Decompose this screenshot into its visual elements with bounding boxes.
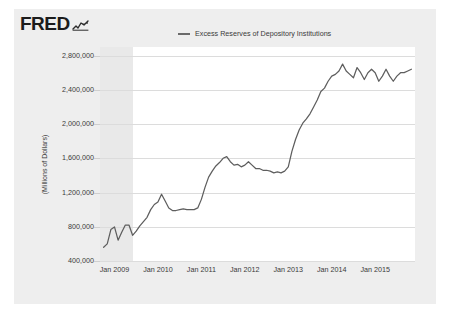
- x-tick-label: Jan 2009: [100, 265, 130, 274]
- screenshot-root: FRED Excess Reserves of Depository Insti…: [0, 0, 450, 318]
- y-tick-label: 1,200,000: [62, 189, 94, 197]
- legend-label-excess-reserves: Excess Reserves of Depository Institutio…: [195, 29, 331, 38]
- fred-wordmark: FRED: [20, 14, 70, 33]
- fred-chart-card: FRED Excess Reserves of Depository Insti…: [14, 9, 436, 304]
- line-chart-spark-icon: [72, 20, 89, 31]
- fred-logo[interactable]: FRED: [20, 14, 89, 33]
- series-excess-reserves: [100, 47, 415, 261]
- x-tick-label: Jan 2014: [317, 265, 347, 274]
- y-tick-label: 2,400,000: [62, 86, 94, 94]
- y-axis-tick-labels: 400,000800,0001,200,0001,600,0002,000,00…: [14, 47, 94, 261]
- y-tick-label: 400,000: [68, 257, 94, 265]
- x-tick-label: Jan 2012: [230, 265, 260, 274]
- gridline: [100, 261, 415, 262]
- legend-swatch-excess-reserves: [178, 33, 190, 35]
- x-tick-label: Jan 2015: [360, 265, 390, 274]
- y-tick-label: 1,600,000: [62, 154, 94, 162]
- series-line-path: [104, 64, 412, 247]
- y-tick-label: 2,800,000: [62, 52, 94, 60]
- chart-legend: Excess Reserves of Depository Institutio…: [178, 29, 331, 38]
- x-tick-label: Jan 2010: [143, 265, 173, 274]
- y-tick-label: 800,000: [68, 223, 94, 231]
- x-axis-tick-labels: Jan 2009Jan 2010Jan 2011Jan 2012Jan 2013…: [100, 265, 415, 277]
- x-tick-label: Jan 2011: [187, 265, 216, 274]
- plot-area: [100, 47, 415, 261]
- y-tick-label: 2,000,000: [62, 120, 94, 128]
- x-tick-label: Jan 2013: [273, 265, 303, 274]
